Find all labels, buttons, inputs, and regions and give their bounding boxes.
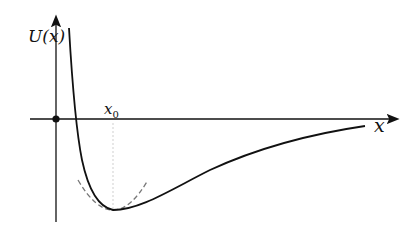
equilibrium-label-subscript: 0 — [112, 109, 118, 120]
y-axis-label: U(x) — [28, 26, 65, 46]
origin-dot — [52, 115, 59, 122]
equilibrium-label: x0 — [104, 100, 119, 120]
potential-diagram: U(x) x0 x — [0, 0, 413, 233]
x-axis-label: x — [374, 114, 385, 136]
